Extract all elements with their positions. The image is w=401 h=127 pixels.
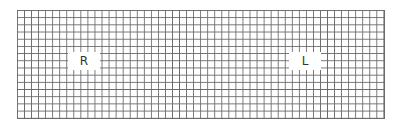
label-l: L: [289, 52, 321, 70]
label-r-text: R: [80, 54, 88, 68]
label-l-text: L: [302, 54, 309, 68]
label-r: R: [68, 52, 100, 70]
